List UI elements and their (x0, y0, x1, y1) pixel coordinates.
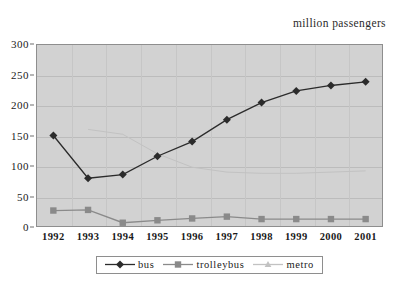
data-point-square (175, 261, 181, 267)
x-axis-tick-label: 1996 (181, 231, 204, 242)
y-axis-tick-mark (30, 135, 34, 136)
y-axis-tick-label: 250 (11, 69, 29, 81)
x-axis: 1992199319941995199619971998199920002001 (36, 231, 383, 247)
data-point-square (120, 220, 126, 226)
data-point-square (362, 216, 368, 222)
y-axis-tick-mark (30, 44, 34, 45)
data-point-diamond (116, 261, 124, 269)
data-point-square (154, 217, 160, 223)
y-axis-unit-label: million passengers (293, 17, 386, 29)
y-axis: 050100150200250300 (0, 44, 34, 227)
data-point-diamond (258, 99, 266, 107)
data-point-square (189, 215, 195, 221)
data-point-diamond (153, 152, 161, 160)
legend-item-trolleybus[interactable]: trolleybus (163, 259, 244, 270)
x-axis-tick-label: 1997 (216, 231, 239, 242)
data-point-diamond (327, 81, 335, 89)
y-axis-tick-mark (30, 166, 34, 167)
x-axis-tick-label: 1993 (77, 231, 100, 242)
data-point-square (85, 207, 91, 213)
legend-item-metro[interactable]: metro (253, 259, 314, 270)
data-point-diamond (362, 78, 370, 86)
x-axis-tick-label: 2001 (354, 231, 377, 242)
chart-legend: bustrolleybusmetro (96, 256, 323, 274)
y-axis-tick-label: 100 (11, 160, 29, 172)
legend-label-trolleybus: trolleybus (196, 259, 244, 270)
legend-marker-square-icon (163, 259, 193, 270)
series-line-trolleybus (53, 210, 365, 223)
y-axis-tick-label: 200 (11, 99, 29, 111)
y-axis-tick-mark (30, 227, 34, 228)
data-point-square (224, 213, 230, 219)
y-axis-tick-label: 150 (11, 130, 29, 142)
x-axis-tick-label: 2000 (320, 231, 343, 242)
data-point-square (328, 216, 334, 222)
series-layer (36, 44, 383, 227)
y-axis-tick-label: 0 (23, 221, 29, 233)
y-axis-tick-label: 300 (11, 38, 29, 50)
y-axis-tick-mark (30, 74, 34, 75)
data-point-diamond (292, 87, 300, 95)
y-axis-tick-label: 50 (17, 191, 29, 203)
series-line-bus (53, 82, 365, 178)
data-point-diamond (119, 171, 127, 179)
legend-label-metro: metro (286, 259, 314, 270)
legend-marker-triangle-icon (253, 259, 283, 270)
legend-item-bus[interactable]: bus (105, 259, 154, 270)
data-point-diamond (223, 116, 231, 124)
y-axis-tick-mark (30, 196, 34, 197)
top-bleed-text (95, 0, 395, 5)
data-point-square (258, 216, 264, 222)
y-axis-tick-mark (30, 105, 34, 106)
data-point-diamond (188, 138, 196, 146)
line-chart: million passengers 050100150200250300 19… (0, 0, 398, 282)
x-axis-tick-label: 1994 (111, 231, 134, 242)
x-axis-tick-label: 1992 (42, 231, 65, 242)
data-point-square (293, 216, 299, 222)
x-axis-tick-label: 1999 (285, 231, 308, 242)
x-axis-tick-label: 1998 (250, 231, 273, 242)
legend-marker-diamond-icon (105, 259, 135, 270)
legend-label-bus: bus (138, 259, 154, 270)
x-axis-tick-label: 1995 (146, 231, 169, 242)
data-point-square (50, 207, 56, 213)
series-line-metro (88, 129, 366, 173)
